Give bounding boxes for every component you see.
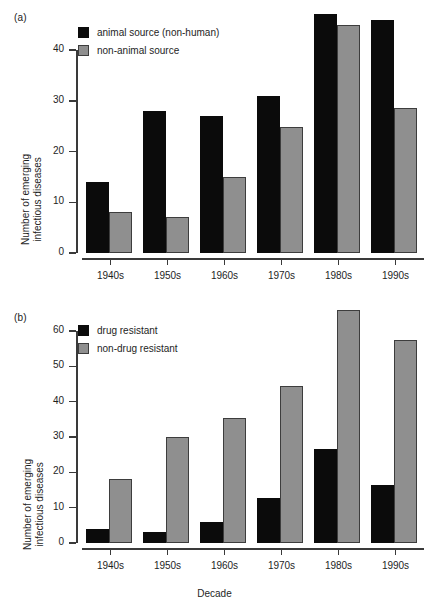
legend-item: non-drug resistant (78, 340, 178, 356)
x-axis-tick-label: 1950s (138, 270, 198, 281)
bar (200, 522, 223, 543)
x-axis-tick (338, 548, 340, 555)
legend-item: non-animal source (78, 42, 219, 58)
bar (109, 479, 132, 543)
x-axis-tick-label: 1950s (138, 560, 198, 571)
y-axis-tick-label: 0 (38, 246, 64, 257)
x-axis-tick (281, 548, 283, 555)
y-axis-tick-label: 0 (38, 536, 64, 547)
y-axis-tick (69, 252, 76, 254)
x-axis-tick (338, 258, 340, 265)
y-axis-tick-label: 30 (38, 430, 64, 441)
bar (109, 212, 132, 253)
x-axis-tick (281, 258, 283, 265)
x-axis-tick (395, 258, 397, 265)
figure-emerging-infectious-diseases: (a) Number of emerging infectious diseas… (0, 0, 429, 611)
y-axis-tick (69, 330, 76, 332)
x-axis-tick-label: 1960s (195, 560, 255, 571)
legend-swatch-icon (78, 325, 89, 336)
x-axis-tick-label: 1970s (252, 560, 312, 571)
legend-label: non-drug resistant (97, 343, 178, 354)
y-axis-tick-label: 20 (38, 145, 64, 156)
x-axis-tick-label: 1980s (309, 270, 369, 281)
x-axis-tick-label: 1990s (366, 560, 426, 571)
y-axis-tick (69, 49, 76, 51)
legend-swatch-icon (78, 27, 89, 38)
bar (371, 485, 394, 543)
y-axis-tick (69, 401, 76, 403)
bar (280, 127, 303, 253)
y-axis-tick (69, 151, 76, 153)
bar (143, 111, 166, 253)
legend-swatch-icon (78, 45, 89, 56)
bar (280, 386, 303, 543)
y-axis-tick-label: 30 (38, 94, 64, 105)
panel-a-label: (a) (14, 12, 27, 23)
x-axis-tick (224, 258, 226, 265)
legend-item: drug resistant (78, 322, 178, 338)
panel-a-legend: animal source (non-human)non-animal sour… (78, 24, 219, 60)
y-axis-tick (69, 542, 76, 544)
bar (337, 310, 360, 543)
y-axis-tick-label: 20 (38, 465, 64, 476)
bar (394, 108, 417, 253)
x-axis-tick-label: 1980s (309, 560, 369, 571)
bar (223, 418, 246, 543)
y-axis-tick (69, 202, 76, 204)
y-axis-tick-label: 50 (38, 359, 64, 370)
panel-a: (a) Number of emerging infectious diseas… (0, 0, 429, 300)
y-axis-tick-label: 40 (38, 395, 64, 406)
bar (371, 20, 394, 253)
bar (337, 25, 360, 253)
bar (86, 529, 109, 543)
x-axis-tick-label: 1970s (252, 270, 312, 281)
x-axis-line (82, 258, 424, 260)
panel-b-x-axis-title: Decade (0, 588, 429, 599)
y-axis-tick-label: 10 (38, 501, 64, 512)
bar (314, 14, 337, 253)
y-axis-tick (69, 100, 76, 102)
bar (257, 498, 280, 543)
legend-swatch-icon (78, 343, 89, 354)
panel-b-label: (b) (14, 312, 27, 323)
x-axis-tick-label: 1990s (366, 270, 426, 281)
y-axis-tick (69, 366, 76, 368)
x-axis-tick-label: 1940s (81, 270, 141, 281)
y-axis-tick (69, 507, 76, 509)
panel-b: (b) Number of emerging infectious diseas… (0, 300, 429, 611)
bar (86, 182, 109, 253)
x-axis-tick (167, 258, 169, 265)
bar (257, 96, 280, 253)
x-axis-tick (224, 548, 226, 555)
bar (200, 116, 223, 253)
bar (143, 532, 166, 543)
y-axis-tick-label: 60 (38, 324, 64, 335)
y-axis-tick-label: 10 (38, 195, 64, 206)
x-axis-line (82, 548, 424, 550)
legend-item: animal source (non-human) (78, 24, 219, 40)
x-axis-tick-label: 1940s (81, 560, 141, 571)
bar (314, 449, 337, 543)
legend-label: animal source (non-human) (97, 27, 219, 38)
panel-b-legend: drug resistantnon-drug resistant (78, 322, 178, 358)
x-axis-tick-label: 1960s (195, 270, 255, 281)
bar (166, 217, 189, 253)
bar (166, 437, 189, 543)
y-axis-tick-label: 40 (38, 43, 64, 54)
legend-label: drug resistant (97, 325, 158, 336)
bar (223, 177, 246, 253)
bar (394, 340, 417, 543)
legend-label: non-animal source (97, 45, 179, 56)
x-axis-tick (395, 548, 397, 555)
x-axis-tick (110, 258, 112, 265)
y-axis-tick (69, 436, 76, 438)
x-axis-tick (167, 548, 169, 555)
x-axis-tick (110, 548, 112, 555)
y-axis-tick (69, 472, 76, 474)
